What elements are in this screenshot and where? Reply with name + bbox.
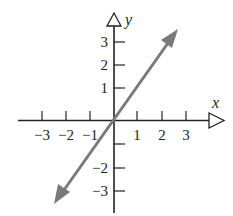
upper-arrowhead-icon (161, 29, 178, 48)
coordinate-plane: −3 −2 −1 1 2 3 3 2 1 −2 −3 y x (0, 0, 233, 216)
y-tick-label: 2 (101, 57, 109, 73)
x-axis-label: x (211, 94, 219, 111)
x-axis-arrow-icon (209, 113, 224, 128)
y-tick-label: 1 (101, 80, 109, 96)
x-tick-label: −2 (58, 127, 74, 143)
y-tick-label: 3 (101, 34, 109, 50)
y-axis-arrow-icon (107, 13, 121, 26)
y-tick-label: −3 (92, 183, 108, 199)
x-tick-label: 2 (158, 127, 166, 143)
y-tick-label: −2 (92, 160, 108, 176)
x-tick-label: −1 (82, 127, 98, 143)
y-axis-label: y (123, 11, 133, 29)
x-tick-label: 1 (133, 127, 141, 143)
x-tick-label: −3 (34, 127, 50, 143)
x-tick-label: 3 (182, 127, 190, 143)
